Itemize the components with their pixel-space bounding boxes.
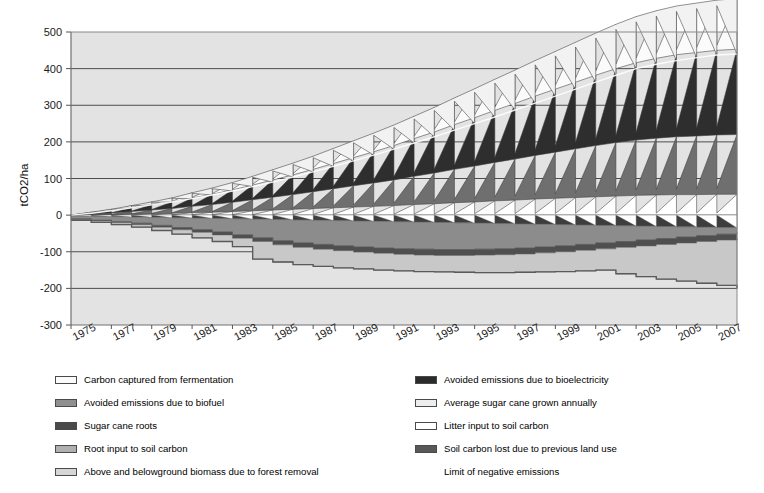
chart-legend: Carbon captured from fermentation Avoide…	[0, 368, 764, 493]
legend-swatch-icon	[415, 422, 437, 430]
legend-item-label: Sugar cane roots	[84, 420, 157, 431]
svg-text:500: 500	[44, 26, 62, 38]
legend-item[interactable]: Litter input to soil carbon	[415, 414, 617, 437]
legend-item[interactable]: Carbon captured from fermentation	[55, 368, 319, 391]
legend-left-column: Carbon captured from fermentation Avoide…	[55, 368, 319, 483]
legend-item-label: Above and belowground biomass due to for…	[84, 466, 319, 477]
svg-text:400: 400	[44, 63, 62, 75]
svg-text:-100: -100	[40, 246, 62, 258]
legend-item[interactable]: Avoided emissions due to bioelectricity	[415, 368, 617, 391]
legend-item-label: Root input to soil carbon	[84, 443, 187, 454]
legend-swatch-icon	[55, 445, 77, 453]
legend-item[interactable]: Sugar cane roots	[55, 414, 319, 437]
legend-item[interactable]: Soil carbon lost due to previous land us…	[415, 437, 617, 460]
legend-right-column: Avoided emissions due to bioelectricity …	[415, 368, 617, 483]
legend-swatch-icon	[55, 376, 77, 384]
legend-item[interactable]: Root input to soil carbon	[55, 437, 319, 460]
legend-item-label: Limit of negative emissions	[444, 466, 559, 477]
y-axis-ticks: 5004003002001000-100-200-300	[40, 26, 71, 331]
emissions-stacked-area-chart: 5004003002001000-100-200-300 19751977197…	[0, 0, 764, 368]
legend-item-label: Average sugar cane grown annually	[444, 397, 597, 408]
legend-swatch-icon	[55, 468, 77, 476]
legend-item-label: Carbon captured from fermentation	[84, 374, 233, 385]
svg-text:0: 0	[56, 209, 62, 221]
legend-swatch-icon	[55, 399, 77, 407]
legend-swatch-icon	[55, 422, 77, 430]
legend-item-label: Avoided emissions due to biofuel	[84, 397, 224, 408]
legend-item-label: Litter input to soil carbon	[444, 420, 549, 431]
legend-item-label: Soil carbon lost due to previous land us…	[444, 443, 617, 454]
legend-item[interactable]: Avoided emissions due to biofuel	[55, 391, 319, 414]
y-axis-title: tCO2/ha	[18, 163, 30, 206]
legend-swatch-icon	[415, 399, 437, 407]
legend-item-label: Avoided emissions due to bioelectricity	[444, 374, 609, 385]
legend-swatch-icon	[415, 445, 437, 453]
svg-text:100: 100	[44, 173, 62, 185]
legend-item[interactable]: Average sugar cane grown annually	[415, 391, 617, 414]
svg-text:-300: -300	[40, 319, 62, 331]
svg-text:-200: -200	[40, 282, 62, 294]
legend-item[interactable]: Above and belowground biomass due to for…	[55, 460, 319, 483]
legend-item[interactable]: Limit of negative emissions	[415, 460, 617, 483]
chart-page: 5004003002001000-100-200-300 19751977197…	[0, 0, 764, 493]
svg-text:200: 200	[44, 136, 62, 148]
legend-swatch-icon	[415, 376, 437, 384]
svg-text:300: 300	[44, 99, 62, 111]
legend-swatch-icon	[415, 468, 437, 476]
